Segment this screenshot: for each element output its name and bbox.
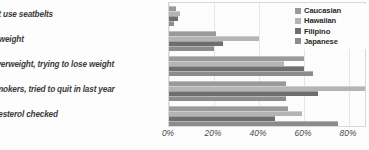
legend-label: Filipino (304, 27, 330, 36)
bar-group (169, 78, 365, 103)
category-label: of smokers, tried to quit in last year (0, 85, 168, 94)
category-label: overweight (0, 35, 168, 44)
legend-item[interactable]: Japanese (295, 37, 364, 47)
category-label: of overweight, trying to lose weight (0, 60, 168, 69)
bar (169, 96, 286, 101)
x-tick-label: 40% (250, 128, 267, 138)
bar (169, 121, 338, 126)
legend-swatch-icon (295, 38, 301, 44)
bar-group (169, 103, 365, 127)
x-tick-label: 60% (295, 128, 312, 138)
x-tick-label: 20% (205, 128, 222, 138)
chart-legend: CaucasianHawaiianFilipinoJapanese (292, 4, 366, 49)
legend-label: Hawaiian (304, 16, 336, 25)
bar (169, 71, 313, 76)
x-axis: 0%20%40%60%80% (168, 128, 366, 142)
chart-root: don't use seatbeltsoverweightof overweig… (0, 0, 369, 150)
x-tick-label: 80% (340, 128, 357, 138)
legend-label: Caucasian (304, 6, 341, 15)
legend-item[interactable]: Caucasian (295, 6, 364, 16)
bar (169, 21, 174, 26)
legend-swatch-icon (295, 18, 301, 24)
bar-group (169, 53, 365, 78)
x-tick-label: 0% (162, 128, 174, 138)
category-label-column: don't use seatbeltsoverweightof overweig… (0, 0, 168, 150)
category-label: don't use seatbelts (0, 10, 168, 19)
legend-swatch-icon (295, 28, 301, 34)
legend-item[interactable]: Filipino (295, 26, 364, 36)
legend-label: Japanese (304, 37, 338, 46)
legend-item[interactable]: Hawaiian (295, 16, 364, 26)
bar (169, 46, 214, 51)
legend-swatch-icon (295, 8, 301, 14)
category-label: cholesterol checked (0, 110, 168, 119)
